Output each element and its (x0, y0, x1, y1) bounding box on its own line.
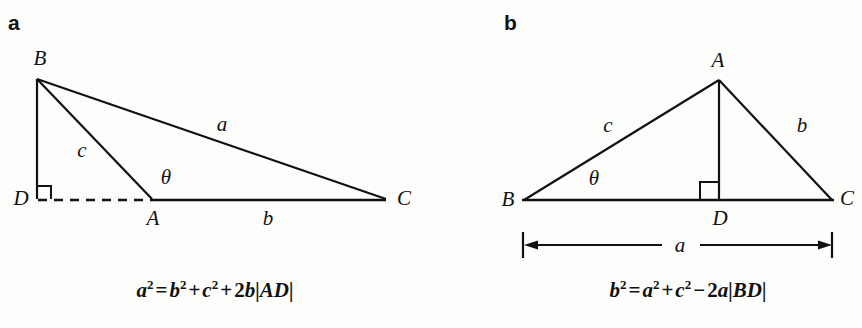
side-label-b: b (263, 208, 274, 229)
eq-b-t3-var: a (718, 278, 729, 302)
eq-b-t2-exp: 2 (685, 277, 692, 292)
eq-b-t3-abs: |BD| (728, 278, 766, 302)
eq-a-op2: + (218, 278, 234, 302)
eq-a-t2-base: c (202, 278, 211, 302)
eq-a-t2-exp: 2 (212, 277, 219, 292)
eq-a-t3-coef: 2 (234, 278, 245, 302)
eq-a-t3-var: b (245, 278, 256, 302)
dimension-label-a: a (675, 235, 686, 256)
angle-label-theta: θ (589, 168, 599, 189)
panel-a-geometry (37, 79, 386, 200)
dimension-arrow-left-head (524, 241, 538, 250)
panel-b-geometry (522, 80, 834, 258)
eq-b-op2: − (691, 278, 707, 302)
caption-equation-a: a2=b2+c2+2b|AD| (136, 280, 293, 301)
dimension-arrow-right-head (818, 241, 832, 250)
angle-label-theta: θ (161, 167, 171, 188)
eq-b-equals: = (626, 278, 642, 302)
eq-b-t1-base: a (642, 278, 653, 302)
panel-label-b: b (504, 12, 517, 33)
side-label-c: c (603, 115, 612, 136)
vertex-label-B: B (34, 48, 47, 69)
right-angle-marker-D (37, 186, 51, 199)
side-label-b: b (797, 115, 808, 136)
vertex-label-D: D (712, 208, 727, 229)
right-angle-marker-D (700, 182, 719, 199)
segment-BA-side-c (37, 79, 152, 199)
vertex-label-B: B (502, 189, 515, 210)
eq-b-lhs-base: b (609, 278, 620, 302)
eq-a-t3-abs: |AD| (255, 278, 293, 302)
vertex-label-C: C (397, 188, 411, 209)
vertex-label-D: D (13, 188, 28, 209)
side-label-a: a (217, 114, 228, 135)
eq-b-t3-coef: 2 (707, 278, 718, 302)
segment-BA-side-c (524, 80, 719, 200)
eq-a-op1: + (186, 278, 202, 302)
caption-equation-b: b2=a2+c2−2a|BD| (609, 280, 766, 301)
eq-b-t2-base: c (675, 278, 684, 302)
figure-canvas: a (0, 0, 862, 328)
eq-a-t1-base: b (169, 278, 180, 302)
segment-BC-side-a (37, 79, 386, 199)
vertex-label-C: C (840, 188, 854, 209)
eq-b-op1: + (659, 278, 675, 302)
eq-a-lhs-base: a (136, 278, 147, 302)
side-label-c: c (77, 140, 86, 161)
vertex-label-A: A (147, 208, 160, 229)
eq-a-equals: = (153, 278, 169, 302)
vertex-label-A: A (712, 50, 725, 71)
segment-AC-side-b (719, 80, 832, 200)
